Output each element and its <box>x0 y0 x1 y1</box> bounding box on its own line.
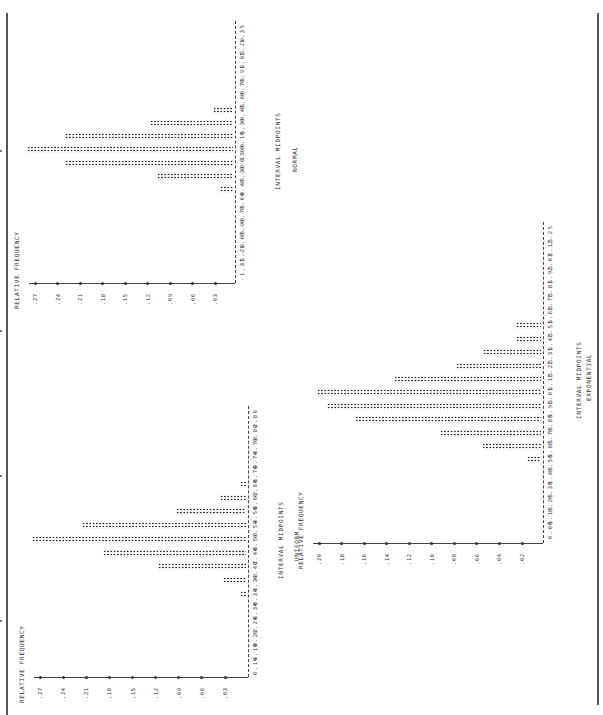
y-tick-mark <box>453 542 456 545</box>
y-tick-label: .09 <box>176 687 182 699</box>
histogram-bar <box>456 363 541 370</box>
x-axis-baseline <box>248 406 249 677</box>
histogram-bar <box>482 443 541 450</box>
y-tick-label: .14 <box>384 553 390 565</box>
histogram-bar <box>440 430 542 437</box>
y-tick-label: .24 <box>60 687 66 699</box>
histogram-bar <box>317 389 541 396</box>
y-tick-label: .12 <box>145 293 151 305</box>
y-tick-label: .21 <box>83 687 89 699</box>
x-tick-label: 2.25 <box>547 224 553 244</box>
y-tick-mark <box>62 676 65 679</box>
margin-mark <box>0 475 2 477</box>
y-tick-mark <box>146 282 149 285</box>
y-tick-label: .12 <box>153 687 159 699</box>
margin-mark <box>0 620 2 622</box>
histogram-bar <box>240 481 246 488</box>
y-tick-mark <box>34 282 37 285</box>
y-tick-mark <box>191 282 194 285</box>
histogram-bar <box>516 336 541 343</box>
y-tick-mark <box>408 542 411 545</box>
y-tick-mark <box>39 676 42 679</box>
y-tick-label: .06 <box>474 553 480 565</box>
y-axis-line <box>34 677 248 678</box>
y-tick-label: .03 <box>222 687 228 699</box>
histogram-bar <box>516 322 541 329</box>
y-tick-mark <box>521 542 524 545</box>
histogram-bar <box>240 591 246 598</box>
histogram-bar <box>220 495 246 502</box>
page-border-left <box>6 13 8 715</box>
y-tick-mark <box>169 282 172 285</box>
y-tick-mark <box>475 542 478 545</box>
histogram-bar <box>82 522 246 529</box>
y-tick-label: .24 <box>55 293 61 305</box>
histogram-bar <box>32 536 246 543</box>
histogram-bar <box>65 160 233 167</box>
histogram-bar <box>355 416 541 423</box>
y-tick-label: .04 <box>496 553 502 565</box>
histogram-bar <box>103 550 246 557</box>
y-tick-label: .15 <box>122 293 128 305</box>
y-tick-mark <box>200 676 203 679</box>
y-tick-mark <box>79 282 82 285</box>
chart-name: EXPONENTIAL <box>585 354 592 401</box>
y-tick-mark <box>131 676 134 679</box>
y-tick-label: .06 <box>190 293 196 305</box>
histogram-bar <box>327 403 541 410</box>
y-tick-mark <box>430 542 433 545</box>
y-tick-mark <box>318 542 321 545</box>
y-tick-mark <box>498 542 501 545</box>
y-tick-mark <box>214 282 217 285</box>
y-axis-title: RELATIVE FREQUENCY <box>297 491 304 569</box>
histogram-bar <box>65 133 233 140</box>
x-axis-baseline <box>235 21 236 283</box>
x-axis-title: INTERVAL MIDPOINTS <box>277 502 284 580</box>
y-tick-mark <box>224 676 227 679</box>
y-tick-mark <box>101 282 104 285</box>
histogram-bar <box>213 107 233 114</box>
y-tick-label: .20 <box>316 553 322 565</box>
x-tick-label: 1.35 <box>239 23 245 43</box>
y-tick-label: .18 <box>106 687 112 699</box>
histogram-bar <box>527 456 541 463</box>
margin-mark <box>0 330 2 332</box>
histogram-bar <box>27 146 233 153</box>
y-tick-label: .09 <box>167 293 173 305</box>
histogram-bar <box>150 120 233 127</box>
y-tick-label: .18 <box>100 293 106 305</box>
histogram-bar <box>394 376 541 383</box>
y-tick-label: .27 <box>32 293 38 305</box>
y-axis-line <box>313 543 543 544</box>
y-tick-label: .21 <box>77 293 83 305</box>
y-tick-label: .06 <box>199 687 205 699</box>
y-tick-mark <box>154 676 157 679</box>
y-tick-label: .16 <box>361 553 367 565</box>
y-tick-mark <box>385 542 388 545</box>
histogram-bar <box>220 186 233 193</box>
y-tick-mark <box>85 676 88 679</box>
histogram-bar <box>158 563 246 570</box>
y-tick-label: .10 <box>429 553 435 565</box>
y-tick-mark <box>340 542 343 545</box>
margin-mark <box>0 150 2 152</box>
y-tick-label: .12 <box>406 553 412 565</box>
y-tick-label: .18 <box>339 553 345 565</box>
y-tick-mark <box>363 542 366 545</box>
x-axis-baseline <box>543 222 544 543</box>
y-tick-label: .03 <box>212 293 218 305</box>
y-tick-label: .02 <box>519 553 525 565</box>
chart-name: NORMAL <box>291 146 298 172</box>
y-tick-label: .08 <box>451 553 457 565</box>
x-axis-title: INTERVAL MIDPOINTS <box>274 112 281 190</box>
y-axis-line <box>29 283 235 284</box>
printout-page: .27.24.21.18.15.12.09.06.03RELATIVE FREQ… <box>0 0 603 715</box>
y-tick-label: .15 <box>130 687 136 699</box>
histogram-bar <box>483 349 541 356</box>
histogram-bar <box>176 508 246 515</box>
y-tick-mark <box>124 282 127 285</box>
x-tick-label: 0.86 <box>252 408 258 428</box>
y-axis-title: RELATIVE FREQUENCY <box>18 625 25 703</box>
histogram-bar <box>157 173 233 180</box>
y-tick-mark <box>177 676 180 679</box>
